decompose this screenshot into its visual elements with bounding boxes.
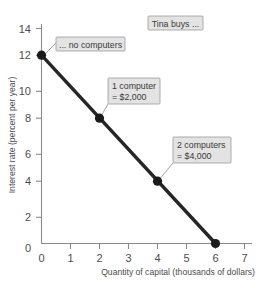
- y-axis-title: Interest rate (percent per year): [7, 77, 17, 194]
- axes: [42, 24, 253, 244]
- callout-one-computer-line2: = $2,000: [112, 92, 147, 102]
- y-tick-label-0: 0: [25, 242, 31, 254]
- callout-heading: Tina buys ...: [148, 16, 203, 30]
- y-tick-label-2: 2: [25, 211, 31, 223]
- data-point-6-0: [211, 239, 220, 248]
- x-tick-label-7: 7: [241, 252, 247, 264]
- callout-one-computer-line1: 1 computer: [112, 81, 156, 91]
- callout-two-computers-line2: = $4,000: [177, 151, 212, 161]
- x-tick-label-0: 0: [38, 252, 44, 264]
- x-axis-tick-labels: 0 1 2 3 4 5 6 7: [38, 252, 247, 264]
- x-tick-label-6: 6: [212, 252, 218, 264]
- callout-two-computers-line1: 2 computers: [177, 140, 226, 150]
- y-axis-tick-labels: 14 12 10 8 6 4 2 0: [19, 23, 31, 254]
- y-tick-label-14: 14: [19, 23, 31, 35]
- data-point-0-12: [37, 51, 46, 60]
- data-point-4-4: [153, 177, 162, 186]
- x-tick-label-1: 1: [67, 252, 73, 264]
- callout-leaders: [43, 43, 173, 181]
- x-tick-label-3: 3: [125, 252, 131, 264]
- callout-heading-label: Tina buys ...: [152, 19, 200, 29]
- y-tick-label-8: 8: [25, 112, 31, 124]
- callout-one-computer: 1 computer = $2,000: [108, 78, 160, 104]
- callout-no-computers: ... no computers: [56, 37, 125, 51]
- x-tick-label-4: 4: [154, 252, 160, 264]
- capital-demand-chart: 14 12 10 8 6 4 2 0 0 1 2 3 4 5 6: [0, 0, 277, 288]
- y-tick-label-10: 10: [19, 85, 31, 97]
- y-tick-label-4: 4: [25, 175, 31, 187]
- x-tick-label-2: 2: [96, 252, 102, 264]
- x-axis-title: Quantity of capital (thousands of dollar…: [101, 267, 255, 277]
- x-tick-label-5: 5: [183, 252, 189, 264]
- callout-no-computers-label: ... no computers: [59, 40, 123, 50]
- chart-figure: 14 12 10 8 6 4 2 0 0 1 2 3 4 5 6: [0, 0, 277, 288]
- y-tick-label-6: 6: [25, 148, 31, 160]
- y-tick-label-12: 12: [19, 49, 31, 61]
- callout-two-computers: 2 computers = $4,000: [173, 137, 231, 163]
- data-point-2-8: [95, 114, 104, 123]
